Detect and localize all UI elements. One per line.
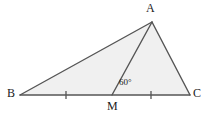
- vertex-label-b: B: [7, 87, 15, 99]
- vertex-label-m: M: [107, 100, 118, 112]
- vertex-label-c: C: [193, 87, 201, 99]
- angle-label-60-degrees: 60°: [119, 78, 132, 87]
- vertex-label-a: A: [146, 2, 155, 14]
